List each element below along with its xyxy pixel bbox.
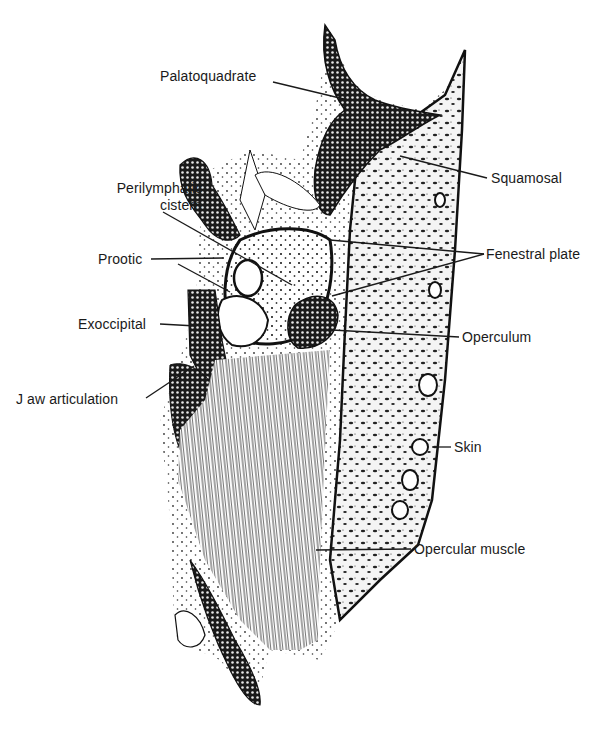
label-jaw-articulation: J aw articulation (16, 391, 118, 407)
label-fenestral-plate: Fenestral plate (486, 246, 580, 262)
label-prootic: Prootic (98, 251, 142, 267)
anatomical-figure: Palatoquadrate Squamosal Perilymphatic c… (0, 0, 608, 730)
label-perilymphatic-cistern: Perilymphatic cistern (92, 180, 202, 214)
label-skin: Skin (454, 439, 482, 455)
section-drawing (0, 0, 608, 730)
label-opercular-muscle: Opercular muscle (414, 541, 525, 557)
label-squamosal: Squamosal (491, 170, 562, 186)
label-operculum: Operculum (462, 329, 531, 345)
label-exoccipital: Exoccipital (78, 316, 146, 332)
label-palatoquadrate: Palatoquadrate (160, 68, 256, 84)
